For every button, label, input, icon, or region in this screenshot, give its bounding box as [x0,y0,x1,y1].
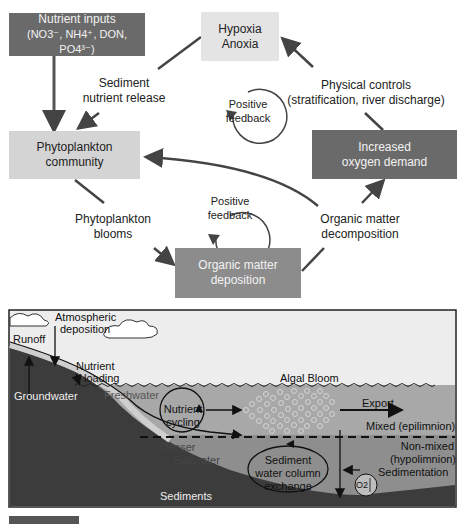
sediments-label: Sediments [160,490,212,503]
sedimentation-label: Sedimentation [378,466,448,479]
groundwater-label: Groundwater [14,390,78,403]
mixed-epilimnion-label: Mixed (epilimnion) [366,420,455,433]
runoff-label: Runoff [13,333,45,346]
sediment-exchange-label: Sediment water column exchange [250,454,326,493]
scale-bar [9,516,79,524]
freshwater-label: Freshwater [104,389,159,402]
oxygen-label: O2 [356,479,368,492]
non-mixed-label: Non-mixed (hypolimnion) [390,440,454,466]
algal-bloom-label: Algal Bloom [280,372,339,385]
export-label: Export [362,397,394,410]
deposition-label: deposition [60,323,110,336]
loading-label: loading [84,372,119,385]
nutrient-cycling-label: Nutrient cycling [163,403,203,429]
denser-saltwater-label: Denser Saltwater [160,441,220,467]
